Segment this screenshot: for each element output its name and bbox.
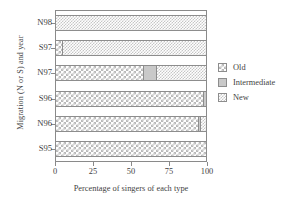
bar-stack [55, 40, 207, 56]
x-tick-mark [131, 162, 132, 166]
legend-label-old: Old [233, 63, 246, 72]
x-tick-mark [93, 162, 94, 166]
bar-stack [55, 141, 207, 157]
bar-s96 [55, 91, 207, 107]
bar-stack [55, 65, 207, 81]
bar-segment-old [56, 117, 198, 131]
y-tick-label-s95: S95 [12, 143, 52, 153]
bar-segment-intermediate [203, 92, 206, 106]
bar-stack [55, 91, 207, 107]
legend-swatch-intermediate [218, 78, 227, 87]
bar-n97 [55, 65, 207, 81]
bar-s95 [55, 141, 207, 157]
bar-segment-new [156, 66, 206, 80]
bar-segment-new [62, 41, 206, 55]
x-tick-label-25: 25 [78, 167, 108, 176]
chart-figure: Migration (N or S) and year N98S97N97S96… [0, 0, 303, 206]
bar-stack [55, 15, 207, 31]
legend-label-new: New [233, 93, 249, 102]
legend-item-old: Old [218, 60, 302, 75]
x-tick-mark [55, 162, 56, 166]
bar-n98 [55, 15, 207, 31]
x-tick-label-75: 75 [154, 167, 184, 176]
bar-segment-old [56, 66, 143, 80]
bar-segment-intermediate [143, 66, 157, 80]
legend-swatch-old [218, 63, 227, 72]
plot-area [55, 10, 207, 162]
legend-label-intermediate: Intermediate [233, 78, 275, 87]
legend-item-intermediate: Intermediate [218, 75, 302, 90]
x-tick-mark [169, 162, 170, 166]
bar-s97 [55, 40, 207, 56]
chart-legend: OldIntermediateNew [218, 60, 302, 105]
y-tick-label-n98: N98 [12, 17, 52, 27]
y-tick-label-s96: S96 [12, 93, 52, 103]
bar-segment-new [56, 16, 206, 30]
y-tick-label-n97: N97 [12, 67, 52, 77]
x-tick-label-50: 50 [116, 167, 146, 176]
bar-segment-old [56, 142, 206, 156]
y-tick-label-n96: N96 [12, 118, 52, 128]
x-tick-label-100: 100 [192, 167, 222, 176]
bar-stack [55, 116, 207, 132]
bar-n96 [55, 116, 207, 132]
y-tick-label-s97: S97 [12, 42, 52, 52]
bar-segment-old [56, 92, 203, 106]
x-axis-title: Percentage of singers of each type [18, 184, 244, 193]
legend-item-new: New [218, 90, 302, 105]
x-tick-mark [207, 162, 208, 166]
legend-swatch-new [218, 93, 227, 102]
x-tick-label-0: 0 [40, 167, 70, 176]
bar-segment-new [200, 117, 206, 131]
